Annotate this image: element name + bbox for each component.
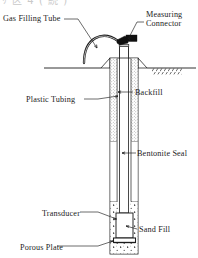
- ground-hatching: [152, 68, 182, 74]
- label-gas-filling-tube: Gas Filling Tube: [3, 14, 60, 23]
- transducer-body: [116, 213, 133, 238]
- label-sand-fill: Sand Fill: [139, 225, 170, 234]
- measuring-connector: [117, 35, 137, 45]
- borehole-installation-figure: [0, 0, 198, 258]
- label-measuring-connector: Measuring Connector: [146, 10, 196, 28]
- plastic-tubing: [120, 46, 129, 213]
- label-backfill: Backfill: [135, 88, 163, 97]
- label-porous-plate: Porous Plate: [20, 243, 63, 252]
- label-measuring-connector-line1: Measuring: [146, 10, 196, 19]
- label-measuring-connector-line2: Connector: [146, 19, 196, 28]
- wellhead-riser: [119, 45, 129, 58]
- porous-plate: [114, 238, 136, 243]
- figure-canvas: [0, 0, 198, 258]
- label-plastic-tubing: Plastic Tubing: [26, 95, 75, 104]
- label-bentonite-seal: Bentonite Seal: [137, 149, 187, 158]
- label-transducer: Transducer: [42, 209, 80, 218]
